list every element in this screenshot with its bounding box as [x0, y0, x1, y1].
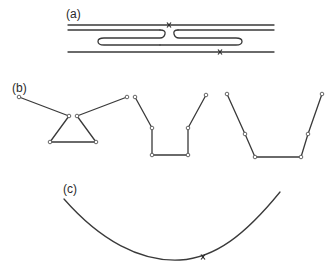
panel-a: (a) [66, 7, 274, 55]
panel-b: (b) [12, 81, 324, 159]
chain-conformation-1 [17, 95, 129, 144]
diagram-figure: (a) (b) [0, 0, 334, 272]
chain-conformation-2 [133, 93, 208, 157]
right-hairpin [160, 30, 242, 45]
chain-conformation-3 [225, 92, 324, 159]
panel-a-label: (a) [66, 7, 81, 21]
panel-b-label: (b) [12, 81, 27, 95]
panel-c: (c) [63, 182, 280, 260]
curved-strand [64, 192, 280, 260]
left-hairpin [98, 30, 165, 45]
panel-c-label: (c) [63, 182, 77, 196]
